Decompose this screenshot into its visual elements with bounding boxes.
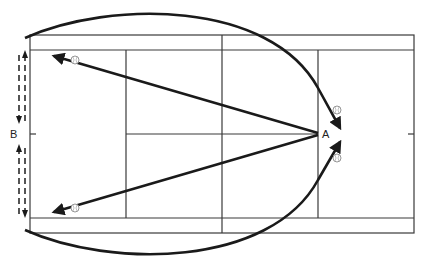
arrow-down-icon <box>22 210 28 218</box>
shot-to-top-left <box>54 56 318 133</box>
arrow-up-icon <box>22 50 28 58</box>
tennis-ball-icon <box>71 204 79 212</box>
bottom-movement-arc <box>25 142 340 254</box>
player-movement-top <box>16 50 28 124</box>
tennis-ball-icon <box>333 154 341 162</box>
arrow-down-icon <box>16 116 22 124</box>
shot-to-bottom-left <box>54 135 318 212</box>
tennis-ball-icon <box>333 106 341 114</box>
point-b-label: B <box>10 128 17 140</box>
player-movement-bottom <box>16 144 28 218</box>
tennis-ball-icon <box>71 56 79 64</box>
arrow-up-icon <box>16 144 22 152</box>
top-movement-arc <box>25 14 340 128</box>
point-a-label: A <box>322 128 330 140</box>
tennis-drill-diagram: B A <box>0 0 431 264</box>
